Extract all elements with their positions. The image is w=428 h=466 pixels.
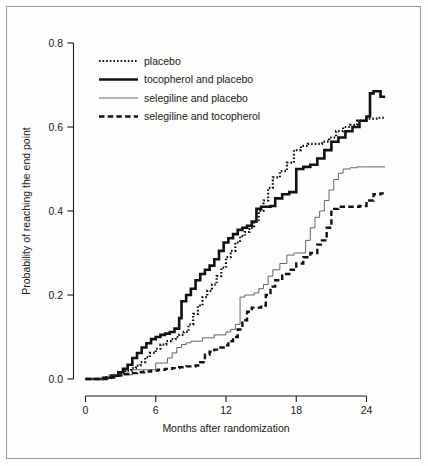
figure-container: 0.8 0.6 0.4 0.2 0.0 Probability of reach… — [0, 0, 428, 466]
series-line-selegiline-and-tocopherol — [86, 193, 386, 379]
y-tick-label-0.8: 0.8 — [48, 37, 63, 49]
x-tick-label-24: 24 — [361, 404, 373, 416]
chart-legend: placebotocopherol and placeboselegiline … — [99, 55, 260, 123]
y-tick-label-0.0: 0.0 — [48, 373, 63, 385]
x-tick-label-18: 18 — [290, 404, 302, 416]
chart-canvas: 0.8 0.6 0.4 0.2 0.0 Probability of reach… — [0, 0, 428, 466]
y-axis-title: Probability of reaching the end point — [20, 127, 32, 295]
legend-label-selegiline-and-tocopherol: selegiline and tocopherol — [144, 110, 260, 122]
series-line-selegiline-and-placebo — [86, 167, 386, 379]
x-tick-label-0: 0 — [83, 404, 89, 416]
x-axis: 0 6 12 18 24 Months after randomization — [83, 396, 373, 434]
y-tick-label-0.6: 0.6 — [48, 121, 63, 133]
data-curves — [86, 91, 386, 379]
legend-label-placebo: placebo — [144, 55, 181, 67]
legend-label-selegiline-and-placebo: selegiline and placebo — [144, 92, 248, 104]
y-tick-label-0.2: 0.2 — [48, 289, 63, 301]
y-tick-label-0.4: 0.4 — [48, 205, 63, 217]
x-tick-label-12: 12 — [220, 404, 232, 416]
legend-label-tocopherol-and-placebo: tocopherol and placebo — [144, 73, 253, 85]
x-axis-title: Months after randomization — [162, 422, 289, 434]
series-line-placebo — [86, 118, 386, 379]
x-tick-label-6: 6 — [153, 404, 159, 416]
y-axis: 0.8 0.6 0.4 0.2 0.0 Probability of reach… — [20, 37, 74, 385]
